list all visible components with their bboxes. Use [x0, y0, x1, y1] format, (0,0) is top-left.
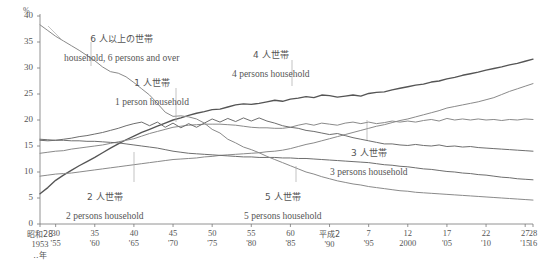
- annotation-5-persons-en: 5 persons household: [244, 211, 322, 221]
- annotation-6-persons-jp: 6 人以上の世帯: [90, 34, 153, 44]
- annotation-2-persons: 2 人世帯 2 persons household: [66, 186, 144, 224]
- annotation-6-persons-en: household, 6 persons and over: [64, 53, 179, 63]
- annotation-3-persons-jp: 3 人世帯: [351, 148, 387, 158]
- annotation-3-persons: 3 人世帯 3 persons household: [330, 142, 408, 180]
- chart-figure: % 4035302520151050 昭和281953‥年30'5535'604…: [0, 0, 541, 266]
- annotation-2-persons-en: 2 persons household: [66, 211, 144, 221]
- x-axis-unit-note: ‥年: [16, 249, 64, 260]
- annotation-2-persons-jp: 2 人世帯: [87, 192, 123, 202]
- x-tick-western-year: 16: [509, 238, 541, 248]
- annotation-1-person-en: 1 person household: [115, 97, 189, 107]
- annotation-6-persons: 6 人以上の世帯 household, 6 persons and over: [64, 28, 179, 66]
- x-tick-label: 2816: [509, 228, 541, 248]
- annotation-5-persons-jp: 5 人世帯: [265, 192, 301, 202]
- annotation-1-person-jp: 1 人世帯: [134, 78, 170, 88]
- series-line-5: [40, 139, 533, 180]
- annotation-5-persons: 5 人世帯 5 persons household: [244, 186, 322, 224]
- leader-line-6-persons: [48, 26, 62, 40]
- annotation-4-persons: 4 人世帯 4 persons household: [232, 44, 310, 82]
- x-tick-era: 28: [509, 228, 541, 238]
- annotation-4-persons-en: 4 persons household: [232, 69, 310, 79]
- series-line-3: [40, 118, 533, 153]
- annotation-4-persons-jp: 4 人世帯: [253, 50, 289, 60]
- annotation-1-person: 1 人世帯 1 person household: [115, 72, 189, 110]
- annotation-3-persons-en: 3 persons household: [330, 167, 408, 177]
- figure-footnote: [180, 255, 540, 266]
